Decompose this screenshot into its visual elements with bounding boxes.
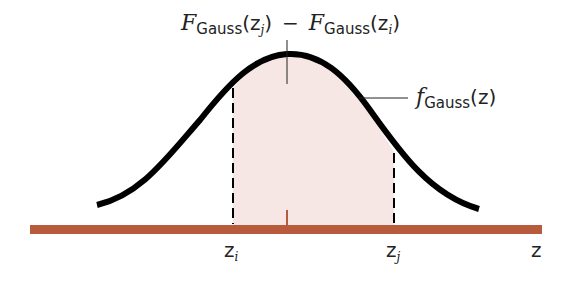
- zi-label: zi: [224, 238, 239, 264]
- curve-label: fGauss(z): [414, 84, 496, 112]
- shaded-area: [233, 54, 394, 226]
- z-axis-label: z: [531, 238, 542, 262]
- area-label: FGauss(zj)−FGauss(zi): [180, 10, 400, 38]
- z-axis: [30, 225, 542, 234]
- zj-label: zj: [386, 238, 401, 264]
- gaussian-area-diagram: FGauss(zj)−FGauss(zi) fGauss(z) zi zj z: [0, 0, 570, 283]
